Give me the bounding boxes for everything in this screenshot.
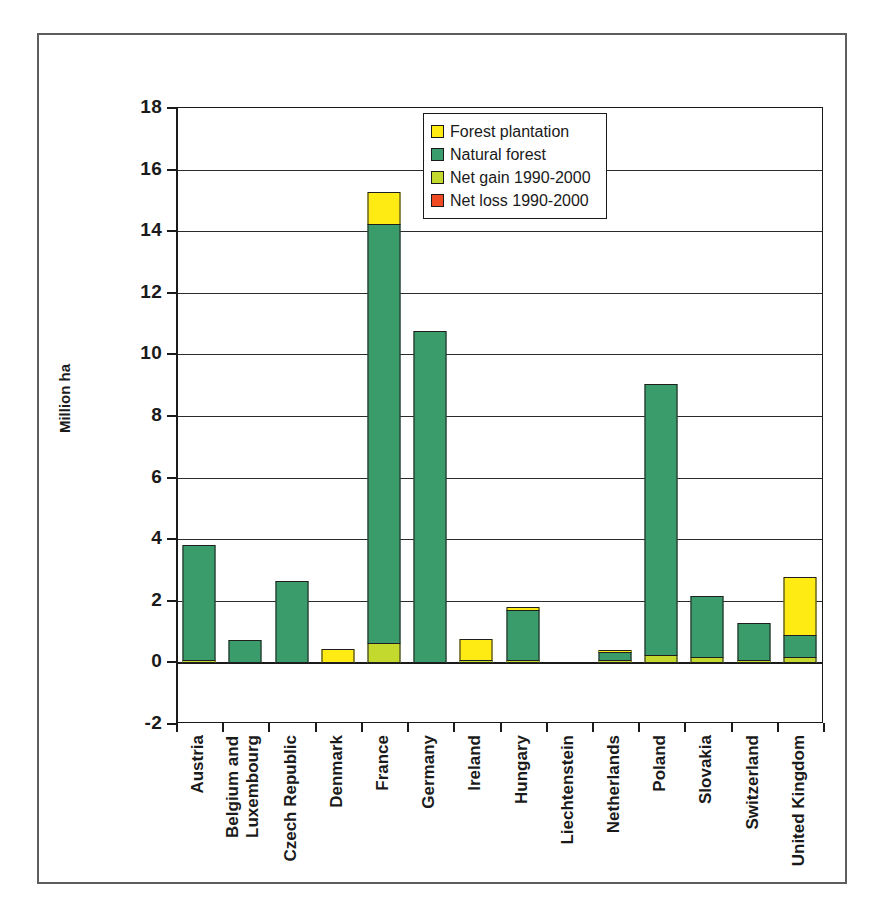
bar-segment-netgain: [367, 643, 400, 663]
bar-stack[interactable]: [414, 331, 447, 662]
x-axis-label-poland: Poland: [650, 735, 672, 792]
bar-segment-natural: [645, 384, 678, 657]
x-axis-label-germany: Germany: [419, 735, 441, 809]
bar-slot: [315, 107, 361, 662]
x-tick: [823, 723, 825, 732]
figure-frame: Million ha 181614121086420-2 AustriaBelg…: [37, 33, 847, 884]
y-tick-8: [167, 415, 176, 417]
bar-stack[interactable]: [599, 650, 632, 662]
legend-swatch-icon: [431, 125, 444, 138]
y-tick-label-8: 8: [102, 404, 162, 426]
bar-stack[interactable]: [506, 607, 539, 663]
bar-segment-natural: [506, 610, 539, 661]
y-tick-label-2: 2: [102, 589, 162, 611]
legend-swatch-icon: [431, 171, 444, 184]
y-tick-0: [167, 661, 176, 663]
legend-label: Natural forest: [450, 146, 546, 164]
y-axis-title: Million ha: [56, 324, 73, 474]
y-tick-label-16: 16: [102, 158, 162, 180]
x-axis-label-ireland: Ireland: [465, 735, 487, 791]
x-tick: [731, 723, 733, 732]
bar-slot: [361, 107, 407, 662]
bar-stack[interactable]: [737, 623, 770, 663]
legend-label: Net loss 1990-2000: [450, 192, 589, 210]
y-tick--2: [167, 723, 176, 725]
x-axis-label-switzerland: Switzerland: [743, 735, 765, 829]
bar-segment-natural: [275, 581, 308, 663]
y-tick-label-0: 0: [102, 650, 162, 672]
bar-slot: [684, 107, 730, 662]
legend-label: Forest plantation: [450, 123, 569, 141]
bar-segment-natural: [691, 596, 724, 658]
x-tick: [638, 723, 640, 732]
x-axis-label-belgium-and-luxembourg: Belgium and Luxembourg: [223, 735, 267, 838]
x-tick: [222, 723, 224, 732]
y-axis-labels: 181614121086420-2: [94, 35, 162, 735]
bar-segment-netgain: [183, 660, 216, 663]
bar-stack[interactable]: [460, 639, 493, 662]
bar-segment-netgain: [506, 660, 539, 663]
x-axis-label-netherlands: Netherlands: [604, 735, 626, 833]
bar-segment-netgain: [599, 660, 632, 663]
y-tick-16: [167, 169, 176, 171]
x-axis-label-hungary: Hungary: [512, 735, 534, 804]
bar-slot: [268, 107, 314, 662]
x-tick: [546, 723, 548, 732]
x-axis-label-slovakia: Slovakia: [696, 735, 718, 804]
bar-slot: [222, 107, 268, 662]
x-tick: [407, 723, 409, 732]
x-axis-label-liechtenstein: Liechtenstein: [558, 735, 580, 845]
bar-segment-plantation: [783, 577, 816, 636]
y-tick-label-18: 18: [102, 96, 162, 118]
legend-swatch-icon: [431, 194, 444, 207]
y-tick-label-14: 14: [102, 219, 162, 241]
x-tick: [315, 723, 317, 732]
y-tick-2: [167, 600, 176, 602]
y-tick-label--2: -2: [102, 712, 162, 734]
x-tick: [361, 723, 363, 732]
bar-segment-plantation: [460, 639, 493, 661]
bar-stack[interactable]: [229, 640, 262, 662]
bar-stack[interactable]: [367, 192, 400, 662]
legend-item[interactable]: Forest plantation: [431, 120, 599, 143]
legend-label: Net gain 1990-2000: [450, 169, 591, 187]
x-axis-label-austria: Austria: [188, 735, 210, 794]
x-tick: [592, 723, 594, 732]
legend-swatch-icon: [431, 148, 444, 161]
chart-legend: Forest plantationNatural forestNet gain …: [423, 113, 607, 219]
bar-segment-netgain: [691, 657, 724, 663]
x-tick: [500, 723, 502, 732]
bar-segment-natural: [367, 224, 400, 644]
bar-segment-natural: [737, 623, 770, 662]
legend-item[interactable]: Net loss 1990-2000: [431, 189, 599, 212]
legend-item[interactable]: Natural forest: [431, 143, 599, 166]
bar-segment-netgain: [737, 660, 770, 663]
y-tick-label-10: 10: [102, 342, 162, 364]
x-tick: [268, 723, 270, 732]
x-axis-label-france: France: [373, 735, 395, 791]
bar-stack[interactable]: [183, 545, 216, 663]
x-axis-label-czech-republic: Czech Republic: [281, 735, 303, 862]
bar-segment-netgain: [783, 657, 816, 663]
bar-stack[interactable]: [645, 384, 678, 662]
y-tick-10: [167, 353, 176, 355]
bar-stack[interactable]: [321, 649, 354, 662]
bar-stack[interactable]: [691, 596, 724, 662]
bar-slot: [731, 107, 777, 662]
bar-slot: [176, 107, 222, 662]
x-tick: [684, 723, 686, 732]
bar-segment-natural: [229, 640, 262, 663]
bar-stack[interactable]: [783, 577, 816, 662]
y-tick-4: [167, 538, 176, 540]
bar-segment-plantation: [367, 192, 400, 224]
bar-segment-natural: [414, 331, 447, 663]
bar-slot: [777, 107, 823, 662]
bar-segment-netgain: [460, 660, 493, 663]
y-tick-14: [167, 230, 176, 232]
x-tick: [777, 723, 779, 732]
y-tick-label-12: 12: [102, 281, 162, 303]
bar-segment-natural: [783, 635, 816, 658]
bar-stack[interactable]: [275, 581, 308, 662]
bar-segment-plantation: [321, 649, 354, 663]
legend-item[interactable]: Net gain 1990-2000: [431, 166, 599, 189]
